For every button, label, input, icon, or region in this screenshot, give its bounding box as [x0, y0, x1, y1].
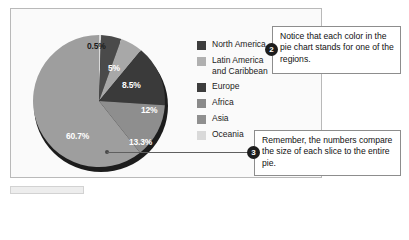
pie-label-europe: 12%: [141, 105, 157, 115]
legend-swatch-icon-oceania: [197, 131, 206, 140]
legend-label-latin-america-line1: Latin America: [212, 55, 264, 65]
pie-label-north-america: 60.7%: [66, 131, 89, 141]
legend-swatch-icon-latin-america: [197, 57, 206, 66]
callout-note-3: Remember, the numbers compare the size o…: [254, 130, 401, 176]
bottom-strip: [10, 186, 84, 194]
legend-swatch-icon-africa: [197, 99, 206, 108]
legend-label-europe: Europe: [212, 81, 239, 92]
pie-chart: 0.5% 5% 8.5% 12% 13.3% 60.7%: [29, 27, 179, 177]
legend-item-africa: Africa: [197, 97, 317, 108]
legend-label-oceania: Oceania: [212, 129, 244, 140]
legend-item-europe: Europe: [197, 81, 317, 92]
callout-3-leader-line: [107, 152, 249, 153]
callout-note-3-text: Remember, the numbers compare the size o…: [262, 135, 392, 168]
legend-label-africa: Africa: [212, 97, 234, 108]
pie-label-africa: 8.5%: [122, 80, 141, 90]
legend-item-asia: Asia: [197, 113, 317, 124]
legend-label-asia: Asia: [212, 113, 229, 124]
legend-label-latin-america-line2: and Caribbean: [212, 66, 268, 76]
callout-badge-2: 2: [265, 43, 278, 56]
pie-label-oceania: 0.5%: [87, 41, 106, 51]
legend-label-north-america: North America: [212, 39, 266, 50]
legend-swatch-icon-north-america: [197, 41, 206, 50]
legend-label-latin-america: Latin Americaand Caribbean: [212, 55, 268, 76]
callout-note-2: Notice that each color in the pie chart …: [272, 26, 401, 74]
legend-swatch-icon-asia: [197, 115, 206, 124]
callout-note-2-text: Notice that each color in the pie chart …: [280, 31, 394, 64]
pie-label-asia: 5%: [108, 63, 120, 73]
pie-label-latin-america: 13.3%: [129, 137, 152, 147]
legend-swatch-icon-europe: [197, 83, 206, 92]
callout-badge-3: 3: [247, 146, 260, 159]
